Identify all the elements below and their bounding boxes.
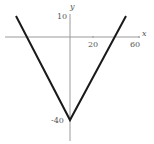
y-tick-label-neg40: -40: [51, 117, 64, 125]
x-axis-label: x: [142, 30, 147, 38]
x-tick-label-60: 60: [130, 41, 140, 49]
y-axis-label: y: [70, 3, 75, 11]
y-tick-label-10: 10: [57, 13, 67, 21]
x-tick-label-20: 20: [88, 41, 98, 49]
curve-abs: [16, 16, 126, 120]
chart-plot: [0, 0, 154, 144]
